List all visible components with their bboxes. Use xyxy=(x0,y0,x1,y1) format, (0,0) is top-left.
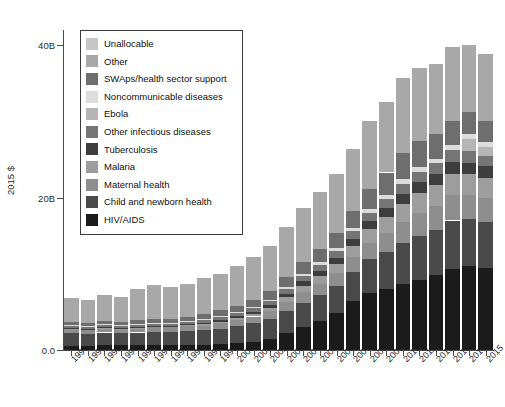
bar-segment-malaria xyxy=(462,174,477,195)
bar-segment-child-and-newborn-health xyxy=(97,333,112,346)
bar-2014[interactable] xyxy=(462,45,477,350)
bar-segment-maternal-health xyxy=(362,243,377,260)
bar-2005[interactable] xyxy=(313,192,328,350)
bar-2007[interactable] xyxy=(346,149,361,350)
legend-item[interactable]: Tuberculosis xyxy=(86,141,237,159)
bar-segment-tuberculosis xyxy=(147,326,162,327)
bar-segment-tuberculosis xyxy=(346,239,361,246)
bar-1993[interactable] xyxy=(114,297,129,350)
bar-segment-hiv-aids xyxy=(114,345,129,350)
bar-segment-malaria xyxy=(445,174,460,195)
bar-segment-other xyxy=(445,47,460,122)
legend-item[interactable]: Unallocable xyxy=(86,35,237,53)
bar-segment-malaria xyxy=(213,322,228,324)
bar-1994[interactable] xyxy=(130,289,145,350)
bar-segment-maternal-health xyxy=(462,195,477,219)
bar-2010[interactable] xyxy=(396,78,411,350)
bar-segment-noncommunicable-diseases xyxy=(81,326,96,327)
y-axis-tick-labels: 0.020B40B xyxy=(0,0,55,407)
bar-segment-noncommunicable-diseases xyxy=(246,307,261,309)
bar-segment-maternal-health xyxy=(313,284,328,295)
bar-1991[interactable] xyxy=(81,300,96,350)
bar-1990[interactable] xyxy=(64,298,79,350)
bar-1995[interactable] xyxy=(147,285,162,350)
bar-1997[interactable] xyxy=(180,284,195,350)
bar-2002[interactable] xyxy=(263,246,278,350)
legend-item[interactable]: Malaria xyxy=(86,158,237,176)
bar-segment-malaria xyxy=(296,286,311,292)
legend-item[interactable]: Maternal health xyxy=(86,176,237,194)
bar-2012[interactable] xyxy=(429,64,444,350)
bar-1999[interactable] xyxy=(213,274,228,350)
bar-segment-maternal-health xyxy=(429,206,444,230)
bar-segment-other-infectious-diseases xyxy=(213,317,228,320)
legend-swatch-icon xyxy=(86,91,98,103)
legend-swatch-icon xyxy=(86,161,98,173)
bar-2013[interactable] xyxy=(445,47,460,350)
legend-item[interactable]: HIV/AIDS xyxy=(86,211,237,229)
bar-segment-other-infectious-diseases xyxy=(445,150,460,161)
bar-segment-swaps-health-sector-support xyxy=(97,321,112,324)
legend-item[interactable]: Ebola xyxy=(86,105,237,123)
y-tick-label: 0.0 xyxy=(42,345,55,356)
bar-1992[interactable] xyxy=(97,295,112,350)
bar-2015[interactable] xyxy=(478,54,493,350)
bar-segment-maternal-health xyxy=(346,257,361,271)
legend-swatch-icon xyxy=(86,55,98,67)
bar-segment-child-and-newborn-health xyxy=(396,243,411,284)
bar-segment-child-and-newborn-health xyxy=(296,303,311,327)
bar-segment-hiv-aids xyxy=(163,345,178,350)
bar-segment-swaps-health-sector-support xyxy=(412,141,427,167)
legend-item[interactable]: Other infectious diseases xyxy=(86,123,237,141)
bar-segment-tuberculosis xyxy=(197,323,212,325)
bar-segment-tuberculosis xyxy=(296,281,311,286)
bar-segment-swaps-health-sector-support xyxy=(462,112,477,134)
bar-2006[interactable] xyxy=(329,174,344,350)
legend-swatch-icon xyxy=(86,179,98,191)
bar-segment-maternal-health xyxy=(64,329,79,333)
bar-segment-tuberculosis xyxy=(114,328,129,329)
bar-segment-tuberculosis xyxy=(412,182,427,193)
bar-2000[interactable] xyxy=(230,266,245,350)
bar-segment-other-infectious-diseases xyxy=(396,184,411,194)
bar-2008[interactable] xyxy=(362,121,377,350)
bar-segment-swaps-health-sector-support xyxy=(246,300,261,307)
bar-segment-swaps-health-sector-support xyxy=(313,249,328,263)
bar-2004[interactable] xyxy=(296,208,311,350)
bar-segment-hiv-aids xyxy=(279,333,294,350)
bar-segment-maternal-health xyxy=(246,317,261,324)
bar-2009[interactable] xyxy=(379,102,394,350)
bar-segment-noncommunicable-diseases xyxy=(445,145,460,150)
bar-segment-child-and-newborn-health xyxy=(445,221,460,270)
bar-segment-swaps-health-sector-support xyxy=(230,306,245,312)
bar-segment-child-and-newborn-health xyxy=(429,230,444,276)
legend-item[interactable]: Noncommunicable diseases xyxy=(86,88,237,106)
bar-2001[interactable] xyxy=(246,257,261,350)
bar-segment-tuberculosis xyxy=(246,312,261,314)
bar-segment-other xyxy=(396,78,411,153)
bar-segment-hiv-aids xyxy=(396,284,411,350)
bar-2003[interactable] xyxy=(279,227,294,350)
legend-swatch-icon xyxy=(86,38,98,50)
y-axis-title: 2015 $ xyxy=(5,166,16,195)
bar-segment-malaria xyxy=(64,329,79,330)
bar-segment-swaps-health-sector-support xyxy=(163,319,178,323)
bar-segment-hiv-aids xyxy=(478,268,493,350)
bar-segment-noncommunicable-diseases xyxy=(64,325,79,326)
bar-segment-hiv-aids xyxy=(462,266,477,350)
legend-item[interactable]: Child and newborn health xyxy=(86,193,237,211)
legend-item[interactable]: Other xyxy=(86,53,237,71)
bar-segment-malaria xyxy=(114,329,129,330)
bar-1998[interactable] xyxy=(197,278,212,350)
bar-segment-noncommunicable-diseases xyxy=(180,321,195,322)
bar-segment-swaps-health-sector-support xyxy=(429,134,444,158)
bar-2011[interactable] xyxy=(412,68,427,350)
bar-segment-swaps-health-sector-support xyxy=(329,233,344,248)
bar-segment-swaps-health-sector-support xyxy=(114,322,129,325)
bar-segment-other-infectious-diseases xyxy=(263,301,278,305)
bar-segment-other-infectious-diseases xyxy=(329,251,344,258)
bar-segment-other xyxy=(197,278,212,315)
legend-item[interactable]: SWAps/health sector support xyxy=(86,70,237,88)
legend-swatch-icon xyxy=(86,108,98,120)
bar-1996[interactable] xyxy=(163,287,178,350)
